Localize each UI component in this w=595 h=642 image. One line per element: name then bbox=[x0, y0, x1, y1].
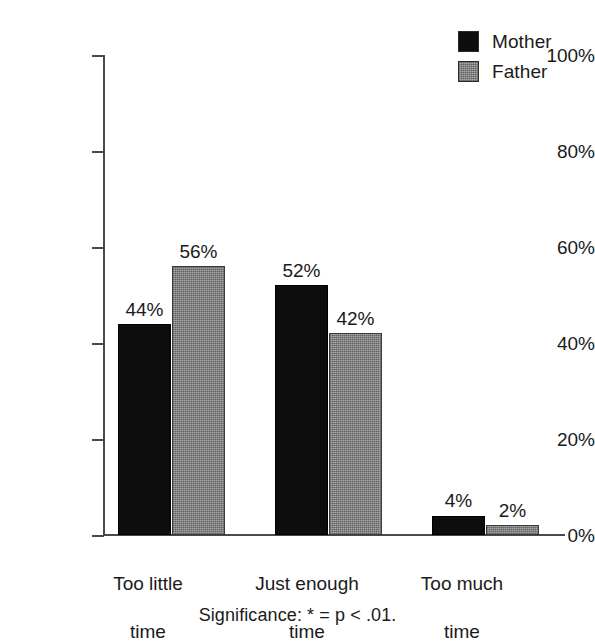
x-axis-label-line2: time bbox=[130, 621, 166, 642]
x-axis-label-line2: time bbox=[444, 621, 480, 642]
significance-footnote: Significance: * = p < .01. bbox=[0, 606, 595, 624]
y-tick-40 bbox=[92, 343, 104, 345]
x-axis-label-line1: Too much bbox=[421, 573, 503, 594]
bar-mother-too-little-time bbox=[118, 324, 171, 535]
value-label-mother-too-little-time: 44% bbox=[118, 300, 171, 319]
x-axis-label-too-much-time: Too much time bbox=[382, 548, 542, 642]
y-tick-0 bbox=[92, 535, 104, 537]
value-label-father-just-enough-time: 42% bbox=[329, 309, 382, 328]
value-label-father-too-much-time: 2% bbox=[486, 501, 539, 520]
x-axis-label-line1: Too little bbox=[113, 573, 183, 594]
legend-swatch-mother-icon bbox=[458, 31, 479, 52]
bar-mother-too-much-time bbox=[432, 516, 485, 535]
bar-father-too-much-time bbox=[486, 525, 539, 535]
bar-mother-just-enough-time bbox=[275, 285, 328, 535]
y-tick-100 bbox=[92, 55, 104, 57]
y-tick-60 bbox=[92, 247, 104, 249]
value-label-father-too-little-time: 56% bbox=[172, 242, 225, 261]
y-tick-20 bbox=[92, 439, 104, 441]
x-axis-label-line1: Just enough bbox=[255, 573, 359, 594]
y-tick-80 bbox=[92, 151, 104, 153]
value-label-mother-too-much-time: 4% bbox=[432, 491, 485, 510]
value-label-mother-just-enough-time: 52% bbox=[275, 261, 328, 280]
x-axis-label-just-enough-time: Just enough time bbox=[222, 548, 392, 642]
plot-area: 44% 56% 52% 42% 4% 2% bbox=[105, 55, 565, 535]
bar-father-too-little-time bbox=[172, 266, 225, 535]
x-axis-label-too-little-time: Too little time bbox=[68, 548, 228, 642]
bar-father-just-enough-time bbox=[329, 333, 382, 535]
